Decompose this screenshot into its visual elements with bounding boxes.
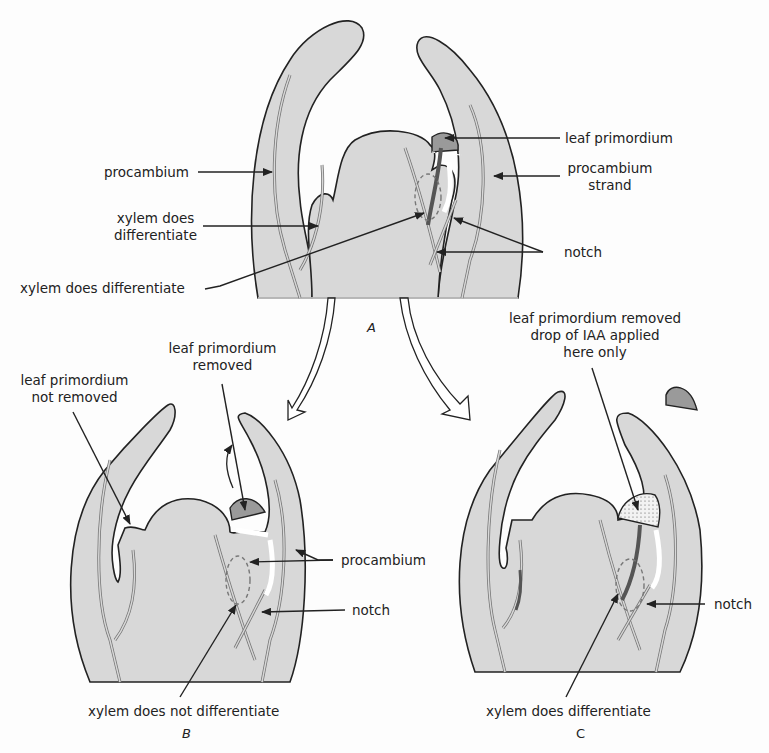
panel-letter-a: A	[367, 320, 376, 335]
label-leaf-primordium-a: leaf primordium	[565, 130, 673, 147]
label-removed-b-line1: leaf primordium	[160, 340, 285, 357]
shoot-apex-diagram: procambium xylem does differentiate xyle…	[0, 0, 769, 753]
panel-letter-c: C	[576, 726, 585, 741]
label-xylem-c: xylem does differentiate	[486, 703, 651, 720]
label-xylem-b: xylem does not differentiate	[88, 703, 279, 720]
panel-letter-b: B	[182, 726, 191, 741]
label-notch-a: notch	[564, 244, 602, 261]
label-iaa-c-line2: drop of IAA applied	[500, 327, 690, 344]
label-xylem-left-a-line2: differentiate	[108, 227, 203, 244]
label-procambium-strand-a-line1: procambium	[560, 160, 660, 177]
label-iaa-c: leaf primordium removed drop of IAA appl…	[500, 310, 690, 361]
label-removed-b: leaf primordium removed	[160, 340, 285, 374]
label-iaa-c-line3: here only	[500, 344, 690, 361]
transition-arrow-to-b	[288, 298, 335, 420]
label-iaa-c-line1: leaf primordium removed	[500, 310, 690, 327]
label-notch-b: notch	[352, 602, 390, 619]
label-procambium-strand-a-line2: strand	[560, 177, 660, 194]
label-xylem-center-a: xylem does differentiate	[20, 280, 185, 297]
label-removed-b-line2: removed	[160, 357, 285, 374]
label-procambium-a: procambium	[104, 164, 189, 181]
label-procambium-strand-a: procambium strand	[560, 160, 660, 194]
label-procambium-b: procambium	[341, 552, 426, 569]
label-notch-c: notch	[714, 596, 752, 613]
transition-arrow-to-c	[400, 298, 470, 420]
label-not-removed-b: leaf primordium not removed	[12, 372, 137, 406]
label-not-removed-b-line1: leaf primordium	[12, 372, 137, 389]
label-xylem-left-a: xylem does differentiate	[108, 210, 203, 244]
label-xylem-left-a-line1: xylem does	[108, 210, 203, 227]
label-not-removed-b-line2: not removed	[12, 389, 137, 406]
